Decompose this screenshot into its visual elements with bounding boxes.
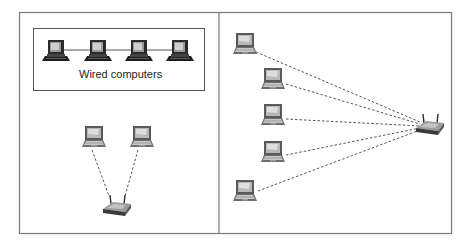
wireless-router-icon	[416, 114, 444, 135]
laptop-icon	[130, 126, 154, 147]
network-diagram	[0, 0, 467, 247]
laptop-icon	[261, 104, 285, 125]
laptop-icon	[233, 180, 257, 201]
wired-computers-label: Wired computers	[79, 68, 162, 80]
wireless-link	[286, 128, 420, 155]
left-panel	[34, 29, 205, 217]
laptop-icon	[233, 33, 257, 54]
wireless-link	[125, 150, 138, 196]
wireless-link	[286, 119, 420, 126]
right-panel	[233, 33, 444, 201]
laptop-icon	[261, 68, 285, 89]
wireless-link	[286, 84, 420, 124]
wireless-router-icon	[103, 195, 131, 216]
wireless-link	[92, 150, 109, 196]
laptop-icon	[82, 126, 106, 147]
laptop-icon	[261, 141, 285, 162]
